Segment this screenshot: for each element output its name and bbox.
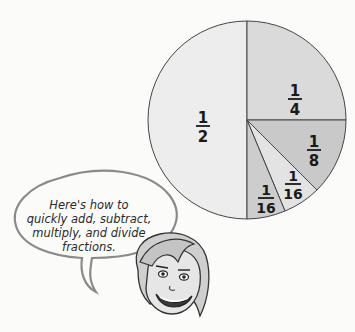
cartoon-girl-illustration (0, 0, 355, 332)
